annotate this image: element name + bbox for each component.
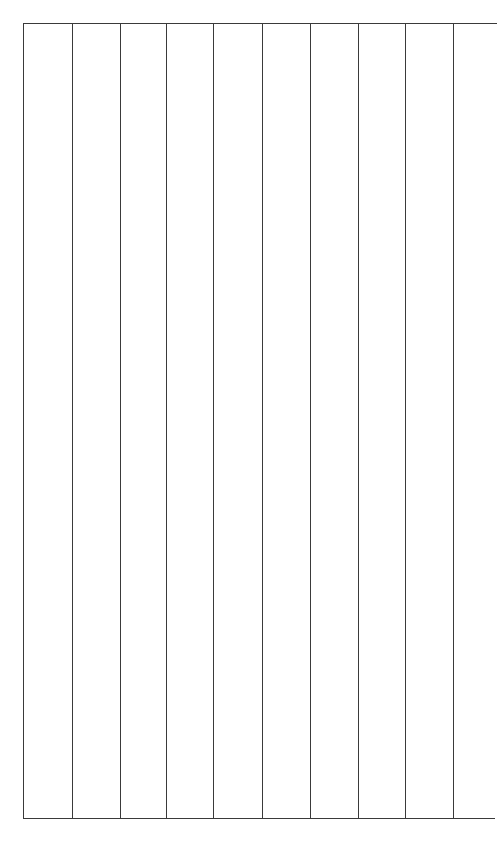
- table-cell: [312, 25, 359, 819]
- table-cell: [407, 25, 454, 819]
- table-cell: [168, 25, 214, 819]
- document-page: [0, 0, 500, 847]
- table-cell: [264, 25, 311, 819]
- table-cell: [74, 25, 121, 819]
- table-cell: [360, 25, 406, 819]
- table-cell: [122, 25, 167, 819]
- table-cell-text: [312, 25, 359, 29]
- table-cell-text: [215, 25, 263, 29]
- table-cell: [25, 25, 73, 819]
- table-cell-text: [264, 25, 311, 29]
- table-grid: [0, 0, 500, 847]
- table-cell-text: [407, 25, 454, 29]
- table-cell-text: [74, 25, 121, 29]
- table-column-rule-9: [453, 23, 454, 818]
- table-cell-text: [122, 25, 167, 29]
- table-cell-text: [25, 25, 73, 29]
- table-cell-text: [168, 25, 214, 29]
- table-bottom-rule: [23, 818, 495, 819]
- table-cell: [215, 25, 263, 819]
- table-cell-text: [360, 25, 406, 29]
